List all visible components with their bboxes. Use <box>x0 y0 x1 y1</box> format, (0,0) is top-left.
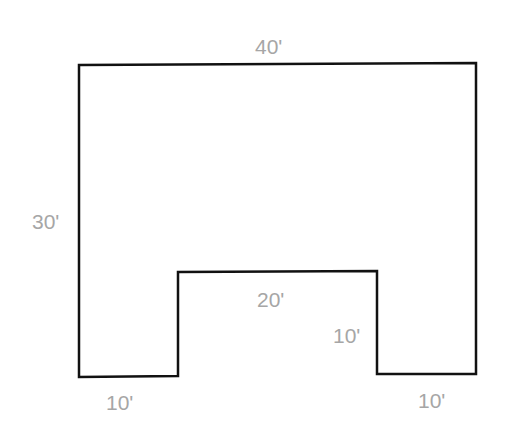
notch-width-label: 20' <box>257 289 284 310</box>
notch-depth-label: 10' <box>333 325 360 346</box>
floor-plan-diagram <box>0 0 510 429</box>
bottom-left-width-label: 10' <box>106 392 133 413</box>
left-height-label: 30' <box>32 211 59 232</box>
floor-plan-outline <box>79 63 476 377</box>
bottom-right-width-label: 10' <box>418 390 445 411</box>
top-width-label: 40' <box>255 36 282 57</box>
